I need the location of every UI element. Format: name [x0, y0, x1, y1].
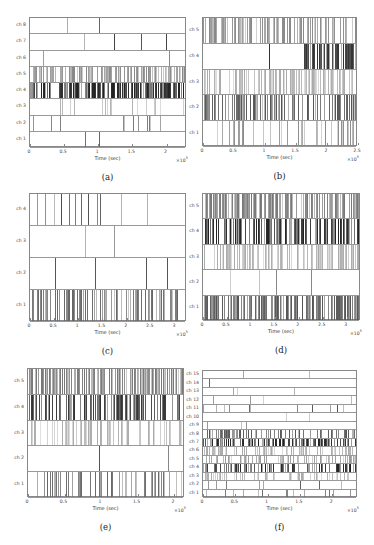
channel-label: ch 7	[177, 439, 199, 444]
spike	[167, 258, 168, 289]
spike	[60, 369, 61, 394]
spike	[273, 70, 274, 95]
spike	[151, 472, 152, 497]
spike	[77, 83, 78, 98]
spike	[237, 464, 238, 471]
spike	[338, 245, 339, 269]
channel-label: ch 5	[2, 378, 24, 383]
spike	[81, 421, 82, 446]
spike	[327, 245, 328, 269]
spike	[250, 464, 251, 471]
spike	[45, 369, 46, 394]
spike	[95, 395, 96, 420]
spike	[241, 456, 242, 463]
spike	[144, 472, 145, 497]
channel-lane	[203, 481, 356, 489]
spike	[107, 67, 108, 82]
spike	[321, 44, 322, 69]
x-tick-label: 1.5	[270, 322, 277, 327]
spike	[36, 67, 37, 82]
spike	[268, 430, 269, 437]
spike	[54, 369, 55, 394]
spike	[49, 395, 50, 420]
spike	[230, 439, 231, 446]
spike	[85, 132, 86, 147]
spike	[80, 472, 81, 497]
x-tick-label: 0	[28, 323, 31, 328]
spike	[89, 369, 90, 394]
spike	[315, 439, 316, 446]
spike	[335, 95, 336, 120]
spike	[271, 464, 272, 471]
x-tick-mark	[138, 494, 139, 496]
x-tick-mark	[347, 317, 348, 319]
spike	[303, 18, 304, 43]
channel-lane	[203, 194, 359, 219]
x-axis-multiplier: ×105	[174, 506, 186, 513]
spike	[339, 447, 340, 454]
spike	[50, 83, 51, 98]
spike	[258, 473, 259, 480]
channel-lane	[30, 51, 185, 67]
channel-lane	[203, 388, 356, 396]
spike	[298, 464, 299, 471]
spike	[258, 439, 259, 446]
spike	[37, 290, 38, 321]
spike	[154, 395, 155, 420]
spike	[101, 421, 102, 446]
spike	[47, 472, 48, 497]
spike	[344, 296, 345, 320]
spike	[118, 67, 119, 82]
channel-label: ch 3	[177, 473, 199, 478]
spike	[338, 430, 339, 437]
spike	[221, 447, 222, 454]
spike	[100, 290, 101, 321]
spike	[111, 67, 112, 82]
spike	[87, 290, 88, 321]
spike	[205, 18, 206, 43]
spike	[119, 369, 120, 394]
spike	[160, 99, 161, 114]
spike	[339, 70, 340, 95]
spike	[267, 95, 268, 120]
spike	[36, 369, 37, 394]
x-tick-label: 0	[201, 322, 204, 327]
spike	[62, 421, 63, 446]
spike	[334, 439, 335, 446]
spike	[291, 194, 292, 218]
channel-lane	[203, 405, 356, 413]
channel-lane	[203, 270, 359, 295]
spike	[308, 44, 309, 69]
spike	[183, 83, 184, 98]
spike	[168, 67, 169, 82]
spike	[244, 70, 245, 95]
spike	[329, 490, 330, 497]
spike	[318, 296, 319, 320]
spike	[306, 296, 307, 320]
spike	[297, 473, 298, 480]
spike	[102, 83, 103, 98]
channel-lane	[30, 83, 185, 99]
spike	[320, 70, 321, 95]
spike	[215, 447, 216, 454]
spike	[242, 245, 243, 269]
x-axis-multiplier: ×105	[176, 156, 188, 163]
spike	[159, 290, 160, 321]
spike	[243, 371, 244, 378]
spike	[240, 430, 241, 437]
channel-label: ch 6	[4, 55, 26, 60]
spike	[299, 473, 300, 480]
spike	[224, 296, 225, 320]
spike	[214, 95, 215, 120]
spike	[131, 83, 132, 98]
spike	[119, 395, 120, 420]
spike	[283, 439, 284, 446]
spike	[336, 44, 337, 69]
x-tick-mark	[227, 317, 228, 319]
spike	[299, 70, 300, 95]
spike	[116, 290, 117, 321]
spike	[169, 51, 170, 66]
spike	[144, 67, 145, 82]
spike	[316, 464, 317, 471]
spike	[245, 18, 246, 43]
